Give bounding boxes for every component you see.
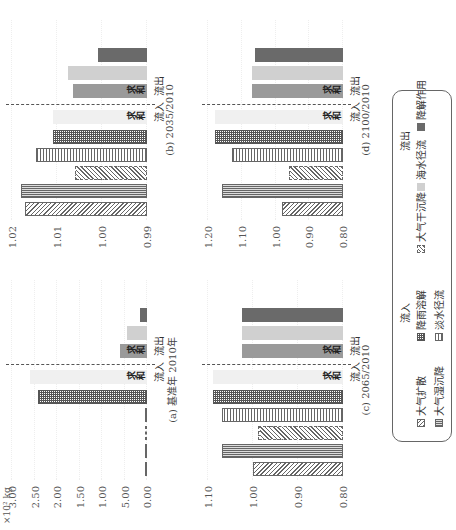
bar-freshwater-runoff — [222, 408, 344, 422]
bar-atm-diffusion — [282, 202, 343, 216]
chart-panel-b: 0.991.001.011.02求和求和流入流出(b) 2035/2010 — [4, 10, 194, 260]
bar-degradation — [242, 308, 343, 322]
sum-label: 求和 — [127, 344, 145, 358]
y-tick-label: 2.00 — [52, 486, 63, 520]
sum-label: 求和 — [127, 370, 145, 384]
legend-item: 海水径流 — [413, 140, 428, 191]
y-tick-label: 1.50 — [74, 486, 85, 520]
sum-label: 求和 — [323, 344, 341, 358]
bar-freshwater-runoff — [232, 148, 343, 162]
bar-freshwater-runoff — [36, 148, 147, 162]
inflow-outflow-divider — [6, 104, 155, 105]
bar-dry-deposition — [289, 166, 343, 180]
gridline — [11, 280, 12, 480]
bar-seawater-runoff — [252, 66, 343, 80]
legend-inflow-title: 流入 — [397, 303, 412, 323]
bar-atm-diffusion — [145, 462, 147, 476]
legend-label: 大气扩散 — [413, 376, 428, 416]
y-tick-label: 0.90 — [304, 226, 315, 260]
sum-label: 求和 — [323, 370, 341, 384]
bar-seawater-runoff — [242, 326, 343, 340]
y-tick-label: 0.80 — [338, 226, 349, 260]
inflow-outflow-divider — [202, 364, 351, 365]
y-tick-label: 1.10 — [236, 226, 247, 260]
legend-swatch-icon — [417, 183, 425, 191]
bar-dry-deposition — [258, 426, 344, 440]
y-tick-label: 2.50 — [29, 486, 40, 520]
legend-item: 大气扩散 — [413, 376, 428, 427]
legend-label: 降解作用 — [413, 80, 428, 120]
plot-area: 0.800.901.001.10求和求和流入流出 — [208, 280, 343, 480]
bar-atm-diffusion — [253, 462, 343, 476]
y-tick-label: 0.00 — [142, 486, 153, 520]
bar-wet-deposition — [222, 184, 344, 198]
panel-caption: (b) 2035/2010 — [164, 20, 175, 220]
panel-caption: (d) 2100/2010 — [360, 20, 371, 220]
bar-dry-deposition — [75, 166, 147, 180]
bar-degradation — [255, 48, 343, 62]
bar-wet-deposition — [222, 444, 344, 458]
legend-label: 降雨溶解 — [413, 290, 428, 330]
y-tick-label: 1.20 — [203, 226, 214, 260]
y-tick-label: 1.00 — [270, 226, 281, 260]
inflow-outflow-divider — [202, 104, 351, 105]
legend-item: 降雨溶解 — [413, 290, 428, 341]
legend-label: 大气湿沉降 — [431, 366, 446, 416]
legend-swatch-icon — [417, 123, 425, 131]
bar-freshwater-runoff — [145, 408, 147, 422]
legend: 流入流出大气扩散降雨溶解大气干沉降大气湿沉降淡水径流海水径流降解作用 — [392, 90, 452, 442]
legend-label: 海水径流 — [413, 140, 428, 180]
chart-panel-a: 0.005.001.001.502.002.503.00×10² kg求和求和流… — [4, 270, 194, 520]
bar-degradation — [140, 308, 147, 322]
bar-rain-dissolution — [213, 390, 344, 404]
bar-rain-dissolution — [215, 130, 343, 144]
bar-wet-deposition — [145, 444, 147, 458]
plot-area: 0.005.001.001.502.002.503.00×10² kg求和求和流… — [12, 280, 147, 480]
legend-item: 降解作用 — [413, 80, 428, 131]
bar-rain-dissolution — [53, 130, 148, 144]
gridline — [11, 20, 12, 220]
chart-panel-c: 0.800.901.001.10求和求和流入流出(c) 2065/2010 — [200, 270, 390, 520]
legend-label: 大气干沉降 — [413, 192, 428, 242]
legend-label: 淡水径流 — [431, 290, 446, 330]
bar-rain-dissolution — [38, 390, 147, 404]
y-tick-label: 1.00 — [97, 486, 108, 520]
legend-item: 大气湿沉降 — [431, 366, 446, 427]
bar-wet-deposition — [21, 184, 147, 198]
bar-dry-deposition — [145, 426, 147, 440]
legend-outflow-title: 流出 — [397, 131, 412, 151]
panel-caption: (c) 2065/2010 — [360, 280, 371, 480]
y-tick-label: 1.00 — [97, 226, 108, 260]
plot-area: 0.991.001.011.02求和求和流入流出 — [12, 20, 147, 220]
chart-panel-d: 0.800.901.001.101.20求和求和流入流出(d) 2100/201… — [200, 10, 390, 260]
legend-item: 大气干沉降 — [413, 192, 428, 253]
bar-degradation — [98, 48, 148, 62]
figure: 0.005.001.001.502.002.503.00×10² kg求和求和流… — [0, 0, 456, 530]
legend-swatch-icon — [435, 333, 443, 341]
y-tick-label: 1.02 — [7, 226, 18, 260]
legend-swatch-icon — [417, 333, 425, 341]
bar-atm-diffusion — [25, 202, 147, 216]
y-tick-label: 1.01 — [52, 226, 63, 260]
y-tick-label: 0.90 — [293, 486, 304, 520]
y-tick-label: 5.00 — [119, 486, 130, 520]
y-axis-unit: ×10² kg — [2, 487, 12, 524]
y-tick-label: 0.80 — [338, 486, 349, 520]
bar-seawater-runoff — [127, 326, 147, 340]
bar-seawater-runoff — [68, 66, 147, 80]
sum-label: 求和 — [323, 110, 341, 124]
gridline — [207, 20, 208, 220]
y-tick-label: 1.00 — [248, 486, 259, 520]
inflow-outflow-divider — [6, 364, 155, 365]
legend-item: 淡水径流 — [431, 290, 446, 341]
panel-caption: (a) 基准年 2010年 — [164, 280, 179, 480]
legend-swatch-icon — [417, 419, 425, 427]
y-tick-label: 1.10 — [203, 486, 214, 520]
legend-swatch-icon — [435, 419, 443, 427]
y-tick-label: 0.99 — [142, 226, 153, 260]
gridline — [207, 280, 208, 480]
sum-label: 求和 — [127, 84, 145, 98]
sum-label: 求和 — [127, 110, 145, 124]
legend-swatch-icon — [417, 245, 425, 253]
sum-label: 求和 — [323, 84, 341, 98]
